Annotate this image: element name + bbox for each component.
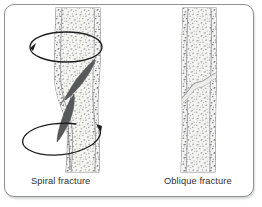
caption-spiral-fracture: Spiral fracture xyxy=(31,176,90,186)
spiral-fracture-bone xyxy=(23,6,104,176)
oblique-fracture-bone xyxy=(178,6,220,176)
fracture-comparison-figure: Spiral fracture Oblique fracture xyxy=(0,0,262,207)
caption-oblique-fracture: Oblique fracture xyxy=(164,176,232,186)
